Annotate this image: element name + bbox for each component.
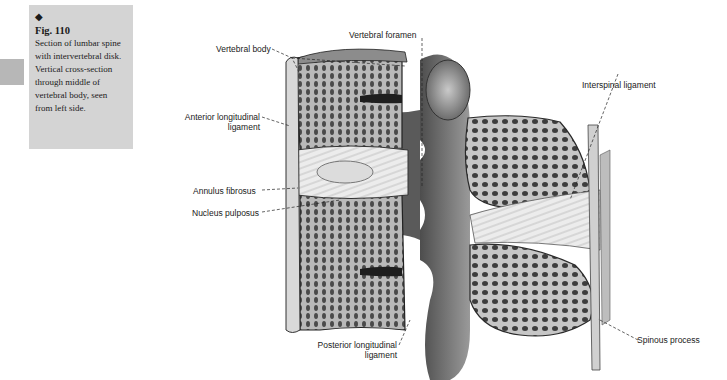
label-annulus-fibrosus: Annulus fibrosus xyxy=(193,186,256,196)
label-spinous-process: Spinous process xyxy=(637,335,700,345)
label-vertebral-foramen: Vertebral foramen xyxy=(349,30,417,40)
label-anterior-longitudinal-ligament: Anterior longitudinal ligament xyxy=(170,112,260,132)
lumbar-spine-illustration xyxy=(0,0,727,380)
label-vertebral-body: Vertebral body xyxy=(216,44,271,54)
label-nucleus-pulposus: Nucleus pulposus xyxy=(192,208,259,218)
label-interspinal-ligament: Interspinal ligament xyxy=(582,80,656,90)
label-posterior-longitudinal-ligament: Posterior longitudinal ligament xyxy=(300,340,397,360)
